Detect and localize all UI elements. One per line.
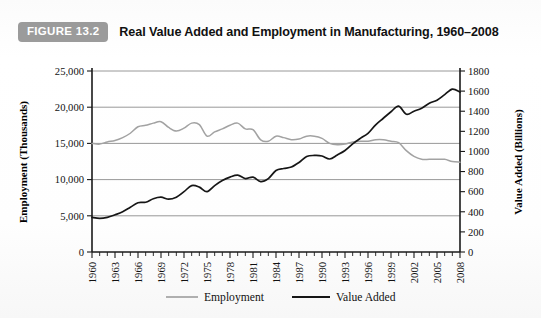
- x-tick-label: 1966: [133, 262, 144, 283]
- x-tick-label: 1999: [386, 262, 397, 283]
- right-tick-label: 200: [468, 227, 484, 238]
- series-line-employment: [92, 121, 460, 162]
- right-tick-label: 1400: [468, 106, 489, 117]
- x-tick-label: 1993: [340, 262, 351, 283]
- figure-container: FIGURE 13.2 Real Value Added and Employm…: [0, 0, 541, 318]
- x-tick-label: 1969: [156, 262, 167, 283]
- x-tick-label: 1972: [179, 262, 190, 283]
- line-chart-svg: 05,00010,00015,00020,00025,000 020040060…: [0, 0, 541, 318]
- x-tick-label: 1978: [225, 262, 236, 283]
- x-tick-label: 2005: [432, 262, 443, 283]
- right-tick-label: 1200: [468, 126, 489, 137]
- x-tick-label: 1960: [87, 262, 98, 283]
- legend-label-employment: Employment: [204, 291, 265, 304]
- x-tick-label: 1996: [363, 262, 374, 283]
- right-tick-label: 400: [468, 207, 484, 218]
- left-axis-title: Employment (Thousands): [17, 101, 30, 223]
- left-axis-tick-labels: 05,00010,00015,00020,00025,000: [55, 66, 84, 258]
- x-tick-label: 1981: [248, 262, 259, 283]
- chart-legend: Employment Value Added: [166, 291, 396, 304]
- right-tick-label: 1000: [468, 146, 489, 157]
- chart-plot-area: 05,00010,00015,00020,00025,000 020040060…: [0, 0, 541, 318]
- legend-label-value-added: Value Added: [336, 291, 396, 304]
- x-tick-label: 1975: [202, 262, 213, 283]
- x-tick-label: 2002: [409, 262, 420, 283]
- x-tick-label: 1984: [271, 261, 282, 283]
- left-tick-label: 10,000: [55, 174, 84, 185]
- left-tick-label: 25,000: [55, 66, 84, 77]
- left-tick-label: 5,000: [60, 211, 84, 222]
- x-tick-label: 1963: [110, 262, 121, 283]
- left-tick-label: 20,000: [55, 102, 84, 113]
- x-axis-tick-labels: 1960196319661969197219751978198119841987…: [87, 261, 466, 283]
- series-line-value-added: [92, 89, 460, 218]
- right-tick-label: 600: [468, 186, 484, 197]
- right-tick-label: 0: [468, 247, 473, 258]
- right-tick-label: 1800: [468, 66, 489, 77]
- grid-lines: [92, 71, 460, 216]
- x-tick-label: 2008: [455, 262, 466, 283]
- right-tick-label: 1600: [468, 86, 489, 97]
- x-tick-label: 1990: [317, 262, 328, 283]
- x-axis-ticks: [92, 252, 460, 258]
- right-tick-label: 800: [468, 166, 484, 177]
- left-tick-label: 15,000: [55, 138, 84, 149]
- right-axis-tick-labels: 020040060080010001200140016001800: [468, 66, 489, 258]
- x-tick-label: 1987: [294, 262, 305, 283]
- left-tick-label: 0: [79, 247, 84, 258]
- right-axis-title: Value Added (Billions): [512, 109, 525, 215]
